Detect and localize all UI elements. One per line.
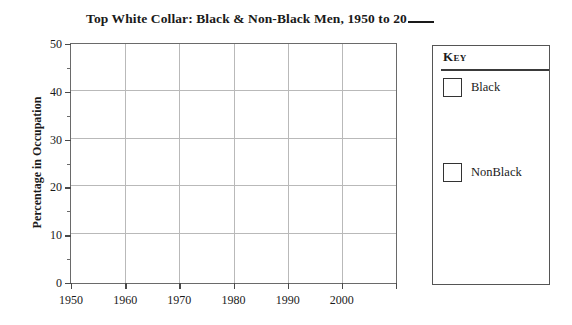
y-axis-minor-tick [67, 211, 71, 212]
y-axis-tick-label: 50 [50, 37, 62, 52]
x-axis-tick [288, 283, 289, 289]
x-axis-tick [342, 283, 343, 289]
x-axis-tick [71, 283, 72, 289]
y-axis-tick-label: 10 [50, 228, 62, 243]
y-axis-tick-label: 40 [50, 84, 62, 99]
gridline-vertical [234, 44, 235, 283]
x-axis-tick [396, 283, 397, 289]
y-axis-tick-label: 0 [56, 276, 62, 291]
x-axis-tick-label: 1980 [222, 293, 246, 308]
gridline-vertical [125, 44, 126, 283]
y-axis-tick [65, 44, 71, 45]
gridline-vertical [342, 44, 343, 283]
legend-item-label: Black [471, 80, 500, 95]
legend-item-black[interactable]: Black [443, 78, 500, 97]
x-axis-tick-label: 1990 [276, 293, 300, 308]
legend-item-nonblack[interactable]: NonBlack [443, 163, 522, 182]
x-axis-tick-label: 1970 [167, 293, 191, 308]
chart-title-text: Top White Collar: Black & Non-Black Men,… [86, 11, 407, 26]
y-axis-tick-label: 20 [50, 180, 62, 195]
x-axis-tick [234, 283, 235, 289]
x-axis-tick-label: 1960 [113, 293, 137, 308]
x-axis-tick [125, 283, 126, 289]
chart-title-blank [408, 21, 434, 23]
y-axis-minor-tick [67, 116, 71, 117]
gridline-vertical [179, 44, 180, 283]
chart-title: Top White Collar: Black & Non-Black Men,… [0, 11, 520, 27]
x-axis-tick-label: 2000 [330, 293, 354, 308]
y-axis-tick [65, 140, 71, 141]
legend-heading: Key [443, 49, 467, 65]
y-axis-tick [65, 235, 71, 236]
legend-key-box: Key Black NonBlack [432, 45, 550, 285]
y-axis-minor-tick [67, 68, 71, 69]
gridline-vertical [288, 44, 289, 283]
y-axis-tick-label: 30 [50, 132, 62, 147]
legend-heading-divider [441, 69, 549, 71]
legend-swatch-icon [443, 163, 462, 182]
x-axis-tick-label: 1950 [59, 293, 83, 308]
y-axis-tick [65, 187, 71, 188]
y-axis-minor-tick [67, 164, 71, 165]
x-axis-tick [179, 283, 180, 289]
y-axis-title: Percentage in Occupation [30, 63, 45, 263]
legend-item-label: NonBlack [471, 165, 522, 180]
plot-area: 0 10 20 30 40 50 1950 1960 1970 1980 199… [70, 43, 397, 284]
y-axis-tick [65, 92, 71, 93]
legend-swatch-icon [443, 78, 462, 97]
y-axis-minor-tick [67, 259, 71, 260]
